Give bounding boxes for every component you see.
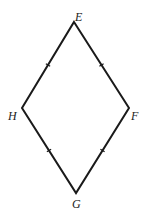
rhombus-diagram: E F G H <box>0 0 147 215</box>
vertex-label-h: H <box>7 109 18 123</box>
vertex-label-e: E <box>74 10 83 24</box>
vertex-label-g: G <box>72 197 81 211</box>
congruence-tick-marks <box>46 64 105 152</box>
vertex-labels: E F G H <box>7 10 139 211</box>
rhombus-outline <box>22 22 129 193</box>
vertex-label-f: F <box>130 109 139 123</box>
rhombus-edges <box>22 22 129 193</box>
